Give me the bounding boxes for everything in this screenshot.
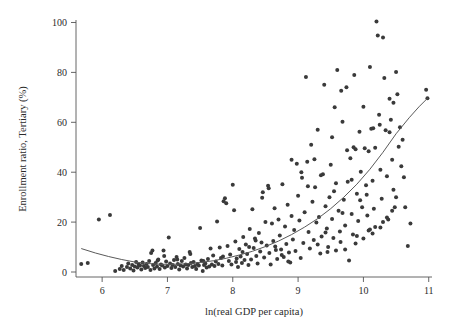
data-point [390, 158, 394, 162]
data-point [313, 185, 317, 189]
data-point [274, 248, 278, 252]
data-point [248, 227, 252, 231]
data-point [325, 227, 329, 231]
x-tick-label: 10 [358, 285, 368, 296]
data-point [224, 201, 228, 205]
data-point [162, 254, 166, 258]
data-point [348, 156, 352, 160]
data-point [372, 207, 376, 211]
data-point [393, 205, 397, 209]
data-point [324, 204, 328, 208]
data-point [301, 241, 305, 245]
y-tick-label: 80 [57, 67, 67, 78]
data-point [388, 130, 392, 134]
data-point [352, 145, 356, 149]
data-point [380, 197, 384, 201]
data-point [305, 160, 309, 164]
data-point [227, 259, 231, 263]
data-point [177, 268, 181, 272]
data-point [300, 176, 304, 180]
data-point [327, 195, 331, 199]
data-point [229, 263, 233, 267]
data-point [232, 208, 236, 212]
data-point [280, 253, 284, 257]
data-point [339, 240, 343, 244]
data-point [351, 233, 355, 237]
data-point [330, 135, 334, 139]
data-point [296, 194, 300, 198]
data-point [156, 259, 160, 263]
data-point [254, 239, 258, 243]
data-point [293, 249, 297, 253]
data-point [346, 180, 350, 184]
x-axis-title: ln(real GDP per capita) [205, 306, 303, 318]
data-point [384, 128, 388, 132]
x-tick-label: 11 [424, 285, 434, 296]
data-point [290, 214, 294, 218]
data-point [258, 250, 262, 254]
data-point [287, 251, 291, 255]
data-point [146, 265, 150, 269]
data-point [388, 97, 392, 101]
data-point [385, 174, 389, 178]
data-point [338, 230, 342, 234]
data-point [389, 118, 393, 122]
data-point [314, 221, 318, 225]
data-point [198, 226, 202, 230]
data-point [283, 225, 287, 229]
data-point [344, 85, 348, 89]
data-point [363, 146, 367, 150]
y-tick-label: 0 [62, 267, 67, 278]
data-point [241, 235, 245, 239]
data-point [138, 264, 142, 268]
data-point [406, 244, 410, 248]
data-point [324, 231, 328, 235]
data-point [371, 179, 375, 183]
data-point [361, 237, 365, 241]
data-point [299, 170, 303, 174]
data-point [286, 203, 290, 207]
data-point [382, 76, 386, 80]
data-point [201, 269, 205, 273]
data-point [364, 183, 368, 187]
data-point [218, 246, 222, 250]
data-point [310, 200, 314, 204]
data-point [361, 105, 365, 109]
data-point [126, 262, 130, 266]
data-point [240, 261, 244, 265]
data-point [331, 236, 335, 240]
data-point [86, 261, 90, 265]
data-point [284, 242, 288, 246]
data-point [316, 243, 320, 247]
data-point [343, 248, 347, 252]
data-point [397, 145, 401, 149]
data-point [408, 222, 412, 226]
y-tick-label: 20 [57, 217, 67, 228]
data-point [244, 243, 248, 247]
data-point [221, 255, 225, 259]
data-point [211, 254, 215, 258]
data-point [194, 267, 198, 271]
data-point [267, 186, 271, 190]
data-point [377, 113, 381, 117]
data-point [394, 70, 398, 74]
data-point [254, 254, 258, 258]
data-point [139, 268, 143, 272]
data-point [309, 143, 313, 147]
data-point [290, 158, 294, 162]
data-point [252, 246, 256, 250]
data-point [365, 214, 369, 218]
data-point [390, 209, 394, 213]
data-point [158, 267, 162, 271]
y-tick-label: 100 [52, 17, 67, 28]
data-point [368, 228, 372, 232]
data-point [325, 250, 329, 254]
x-tick-label: 7 [165, 285, 170, 296]
data-point [260, 241, 264, 245]
data-point [339, 89, 343, 93]
data-point [401, 138, 405, 142]
data-point [79, 262, 83, 266]
y-axis-title: Enrollment ratio, Tertiary (%) [17, 86, 29, 212]
data-point [228, 253, 232, 257]
data-point [333, 105, 337, 109]
